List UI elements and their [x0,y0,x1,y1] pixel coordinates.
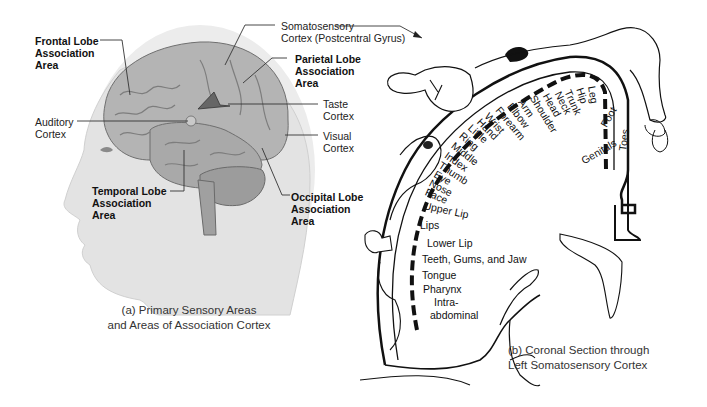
label-line: Association [92,197,166,209]
label-line: Association [35,47,99,59]
panel-coronal-section: Leg Hip Trunk Neck Head Shoulder Arm Elb… [360,0,707,407]
label-line: Cortex [323,110,354,122]
label-parietal-lobe: Parietal Lobe Association Area [295,53,361,89]
caption-a: (a) Primary Sensory Areas and Areas of A… [106,303,272,333]
homunculus-label-lower-lip: Lower Lip [427,237,473,249]
caption-b: (b) Coronal Section through Left Somatos… [508,343,658,373]
label-line: Cortex [35,128,74,140]
label-line: Frontal Lobe [35,35,99,47]
label-line: Temporal Lobe [92,185,166,197]
homunculus-label-abdominal: abdominal [430,309,478,321]
homunculus-label-tongue: Tongue [422,269,456,281]
label-line: Auditory [35,116,74,128]
label-line: Area [92,209,166,221]
label-line: Parietal Lobe [295,53,361,65]
homunculus-label-pharynx: Pharynx [423,283,462,295]
caption-line: and Areas of Association Cortex [106,318,272,333]
homunculus-label-lips: Lips [420,219,439,231]
label-line: Association [291,203,363,215]
label-line: Area [35,59,99,71]
homunculus-label-intra: Intra- [434,296,459,308]
caption-line: (b) Coronal Section through [508,343,658,358]
caption-line: Left Somatosensory Cortex [508,358,658,373]
label-line: Occipital Lobe [291,191,363,203]
label-line: Area [291,215,363,227]
label-taste-cortex: Taste Cortex [323,98,354,122]
label-temporal-lobe: Temporal Lobe Association Area [92,185,166,221]
label-frontal-lobe: Frontal Lobe Association Area [35,35,99,71]
label-line: Association [295,65,361,77]
label-line: Taste [323,98,354,110]
panel-primary-sensory-areas: Frontal Lobe Association Area Somatosens… [0,0,360,407]
homunculus-label-teeth-gums-jaw: Teeth, Gums, and Jaw [422,253,526,265]
caption-line: (a) Primary Sensory Areas [106,303,272,318]
label-line: Visual [323,130,354,142]
label-auditory-cortex: Auditory Cortex [35,116,74,140]
label-line: Cortex [323,142,354,154]
label-visual-cortex: Visual Cortex [323,130,354,154]
label-line: Area [295,77,361,89]
label-occipital-lobe: Occipital Lobe Association Area [291,191,363,227]
